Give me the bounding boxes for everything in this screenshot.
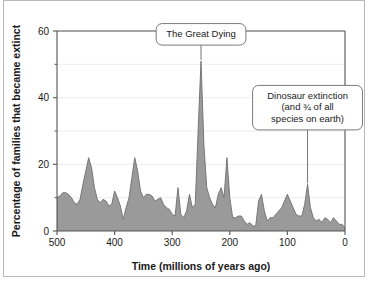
- annotation-text-line: species on earth): [271, 113, 344, 124]
- x-tick-label: 300: [164, 237, 181, 248]
- annotation-text-line: The Great Dying: [166, 28, 236, 39]
- y-tick-label: 40: [38, 92, 50, 103]
- x-tick-label: 100: [279, 237, 296, 248]
- x-tick-label: 400: [106, 237, 123, 248]
- extinction-area-chart: 5004003002001000 0204060 Time (millions …: [0, 0, 373, 292]
- x-tick-label: 200: [221, 237, 238, 248]
- annotation-callout-great-dying: The Great Dying: [156, 24, 246, 60]
- annotation-callout-dinosaur-extinction: Dinosaur extinction(and ¾ of allspecies …: [253, 85, 363, 183]
- x-axis-tick-labels: 5004003002001000: [49, 237, 349, 248]
- y-tick-label: 0: [43, 226, 49, 237]
- y-tick-label: 20: [38, 159, 50, 170]
- annotation-text-line: (and ¾ of all: [281, 101, 333, 112]
- y-axis-title: Percentage of families that became extin…: [10, 24, 22, 237]
- annotation-text-line: Dinosaur extinction: [267, 90, 348, 101]
- y-axis-tick-labels: 0204060: [38, 26, 50, 237]
- x-axis-ticks: [57, 231, 345, 235]
- y-tick-label: 60: [38, 26, 50, 37]
- x-axis-title: Time (millions of years ago): [132, 260, 271, 272]
- x-tick-label: 500: [49, 237, 66, 248]
- chart-annotations: The Great DyingDinosaur extinction(and ¾…: [156, 24, 362, 184]
- x-tick-label: 0: [342, 237, 348, 248]
- y-axis-ticks: [53, 31, 57, 231]
